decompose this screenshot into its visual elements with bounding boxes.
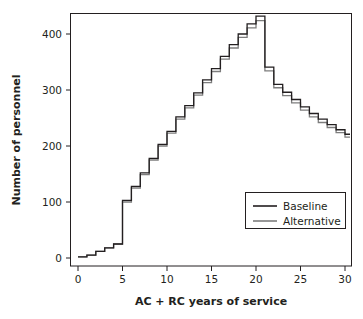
x-tick-label: 20 — [249, 273, 262, 285]
y-tick-label: 200 — [42, 140, 62, 152]
chart-figure: Number of personnel, by years of service… — [0, 0, 363, 319]
x-tick-label: 15 — [205, 273, 218, 285]
x-tick-label: 10 — [160, 273, 173, 285]
y-axis-title: Number of personnel — [10, 74, 23, 205]
x-tick-label: 25 — [294, 273, 307, 285]
x-tick-label: 30 — [338, 273, 351, 285]
x-tick-label: 5 — [119, 273, 126, 285]
y-tick-label: 300 — [42, 84, 62, 96]
x-axis-title: AC + RC years of service — [135, 295, 287, 308]
chart-background — [0, 0, 363, 319]
legend-label-baseline: Baseline — [283, 200, 328, 212]
y-tick-label: 0 — [55, 252, 62, 264]
x-tick-label: 0 — [75, 273, 82, 285]
step-chart: 0100200300400 051015202530 Number of per… — [0, 0, 363, 319]
chart-legend[interactable]: BaselineAlternative — [246, 193, 346, 229]
y-tick-label: 400 — [42, 28, 62, 40]
legend-label-alternative: Alternative — [283, 215, 341, 227]
y-tick-label: 100 — [42, 196, 62, 208]
